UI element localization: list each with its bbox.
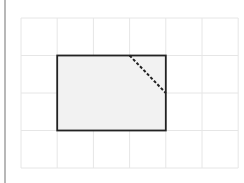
- shaded-rectangle: [57, 56, 166, 131]
- grid-diagram: [0, 0, 244, 183]
- diagram-canvas: [0, 0, 244, 183]
